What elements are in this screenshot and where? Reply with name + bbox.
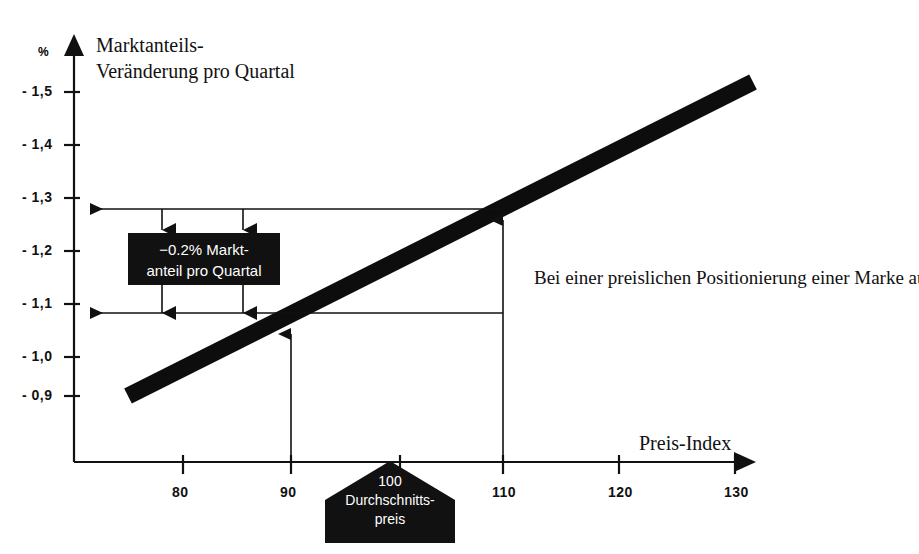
y-tick-label-2: - 1,3 (22, 189, 53, 205)
x-axis-title: Preis-Index (639, 432, 731, 455)
x-tick-label-0: 80 (172, 484, 189, 500)
average-price-callout-line3: preis (290, 510, 490, 529)
explanatory-note: Bei einer preislichen Positionierung ein… (534, 264, 894, 291)
y-axis-unit-label: % (38, 45, 49, 59)
price-index-market-share-chart: % Marktanteils- Veränderung pro Quartal … (0, 0, 919, 554)
y-tick-label-4: - 1,1 (22, 295, 53, 311)
y-tick-marks (64, 92, 80, 396)
delta-box-line2: anteil pro Quartal (128, 260, 280, 281)
y-axis-arrowhead (64, 34, 84, 56)
average-price-callout-line2: Durchschnitts- (290, 491, 490, 510)
y-tick-label-0: - 1,5 (22, 83, 53, 99)
average-price-callout-line1: 100 (290, 472, 490, 491)
y-tick-label-3: - 1,2 (22, 242, 53, 258)
x-axis-arrowhead (734, 452, 756, 472)
delta-box-text: −0.2% Markt- anteil pro Quartal (128, 239, 280, 281)
y-axis-title-line1: Marktanteils- (96, 32, 204, 58)
delta-box-line1: −0.2% Markt- (128, 239, 280, 260)
y-tick-label-1: - 1,4 (22, 136, 53, 152)
y-tick-label-5: - 1,0 (22, 348, 53, 364)
y-tick-label-6: - 0,9 (22, 387, 53, 403)
x-tick-label-3: 110 (492, 484, 516, 500)
y-axis-title-line2: Veränderung pro Quartal (96, 58, 295, 84)
x-tick-label-5: 130 (724, 484, 749, 500)
x-tick-label-4: 120 (608, 484, 633, 500)
average-price-callout-text: 100 Durchschnitts- preis (290, 472, 490, 529)
